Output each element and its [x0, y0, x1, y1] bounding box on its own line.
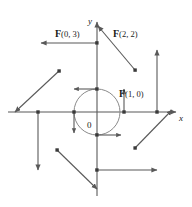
base-point-lower-left	[55, 148, 58, 151]
origin-label: 0	[87, 121, 92, 130]
base-point-f-2-2	[133, 68, 136, 71]
base-point-top	[95, 87, 98, 90]
label-f-2-2-components: (2, 2)	[119, 29, 137, 39]
x-axis-label: x	[179, 114, 183, 123]
base-point-right-axis	[155, 110, 158, 113]
base-point-f-1-0	[122, 110, 125, 113]
label-f-1-0-components: (1, 0)	[125, 89, 143, 99]
base-point-f-0-3	[95, 41, 98, 44]
vector-lower-right-diagonal	[135, 110, 172, 148]
label-f-2-2: F(2, 2)	[113, 29, 138, 39]
vector-field-figure: F(0, 3) F(2, 2) F(1, 0) x y 0	[0, 0, 192, 207]
base-point-left	[72, 110, 75, 113]
vector-upper-left-diagonal	[15, 71, 59, 112]
base-point-left-axis	[36, 110, 39, 113]
base-point-bottom	[95, 133, 98, 136]
vector-field-canvas	[0, 0, 192, 207]
vector-arrows-group	[15, 26, 172, 189]
base-point-lower-right	[133, 146, 136, 149]
label-f-0-3: F(0, 3)	[55, 29, 80, 39]
label-f-0-3-components: (0, 3)	[61, 29, 79, 39]
label-f-1-0: F(1, 0)	[119, 89, 144, 99]
vector-lower-left-diagonal	[57, 150, 97, 189]
base-point-upper-left	[57, 69, 60, 72]
base-point-bottom-axis	[95, 168, 98, 171]
y-axis-label: y	[88, 17, 92, 26]
